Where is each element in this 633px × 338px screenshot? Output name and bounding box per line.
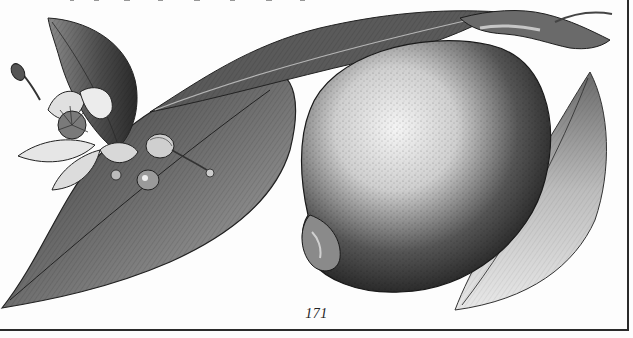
page-number: 171 bbox=[0, 306, 633, 322]
frame-border-bottom bbox=[0, 329, 629, 331]
branch bbox=[460, 11, 612, 49]
lemon-illustration bbox=[0, 0, 626, 328]
flower-stem bbox=[8, 61, 40, 100]
book-page: 171 bbox=[0, 0, 633, 338]
frame-border-right bbox=[627, 0, 629, 331]
